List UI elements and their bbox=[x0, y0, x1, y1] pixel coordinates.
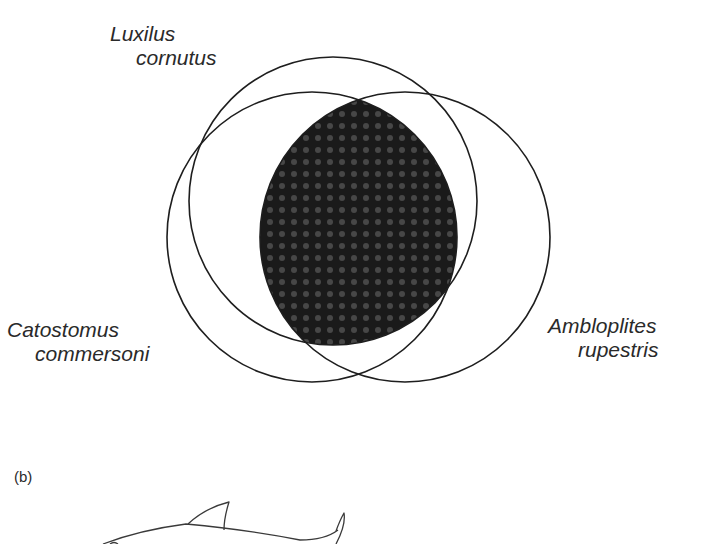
label-line-1: Catostomus bbox=[7, 318, 149, 342]
shaded-intersection-region bbox=[189, 57, 477, 345]
panel-b-label: (b) bbox=[14, 468, 32, 485]
label-line-2: rupestris bbox=[548, 338, 659, 362]
label-catostomus-commersoni: Catostomus commersoni bbox=[7, 318, 149, 366]
label-line-2: commersoni bbox=[7, 342, 149, 366]
tail-fin bbox=[336, 513, 344, 544]
label-line-2: cornutus bbox=[110, 46, 217, 70]
label-line-1: Luxilus bbox=[110, 22, 217, 46]
venn-diagram bbox=[0, 0, 703, 544]
fish-outline bbox=[103, 502, 344, 544]
label-line-1: Ambloplites bbox=[548, 314, 659, 338]
label-ambloplites-rupestris: Ambloplites rupestris bbox=[548, 314, 659, 362]
label-luxilus-cornutus: Luxilus cornutus bbox=[110, 22, 217, 70]
